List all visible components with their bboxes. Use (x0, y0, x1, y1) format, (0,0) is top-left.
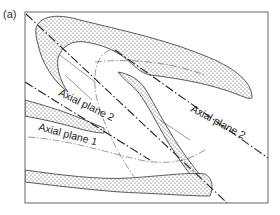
stippled-layer-upper (36, 16, 252, 98)
fold-diagram: Axial plane 2 Axial plane 1 Axial plane … (0, 0, 280, 215)
thin-line (60, 55, 95, 82)
axial-plane-2-label-right: Axial plane 2 (189, 102, 248, 141)
stippled-layer-bottom (25, 170, 212, 196)
stippled-layer-middle (118, 72, 210, 189)
